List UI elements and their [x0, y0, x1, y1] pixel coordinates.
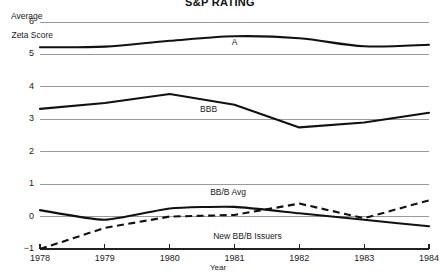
- series-label-bb-b-avg: BB/B Avg: [210, 187, 246, 197]
- y-axis-tick-label: 0: [12, 211, 34, 221]
- x-axis-tick-label: 1979: [85, 253, 125, 263]
- x-axis-tick-label: 1982: [279, 253, 319, 263]
- y-axis-tick-label: 1: [12, 178, 34, 188]
- series-line-bbb: [40, 94, 429, 127]
- x-axis-title: Year: [0, 263, 436, 272]
- series-label-a: A: [232, 37, 238, 47]
- series-label-bbb: BBB: [200, 104, 217, 114]
- y-axis-tick-label: 2: [12, 146, 34, 156]
- y-axis-tick-label: 3: [12, 113, 34, 123]
- y-axis-tick-label: 5: [12, 48, 34, 58]
- y-axis-tick-label: −1: [12, 243, 34, 253]
- series-label-new-bb-b-issuers: New BB/B Issuers: [213, 231, 282, 241]
- x-axis-tick-label: 1983: [344, 253, 384, 263]
- x-axis-tick-label: 1981: [215, 253, 255, 263]
- y-axis-tick-label: 6: [12, 16, 34, 26]
- y-axis-tick-label: 4: [12, 81, 34, 91]
- x-axis-tick-label: 1980: [150, 253, 190, 263]
- x-axis-tick-label: 1978: [20, 253, 60, 263]
- x-axis-tick-label: 1984: [409, 253, 444, 263]
